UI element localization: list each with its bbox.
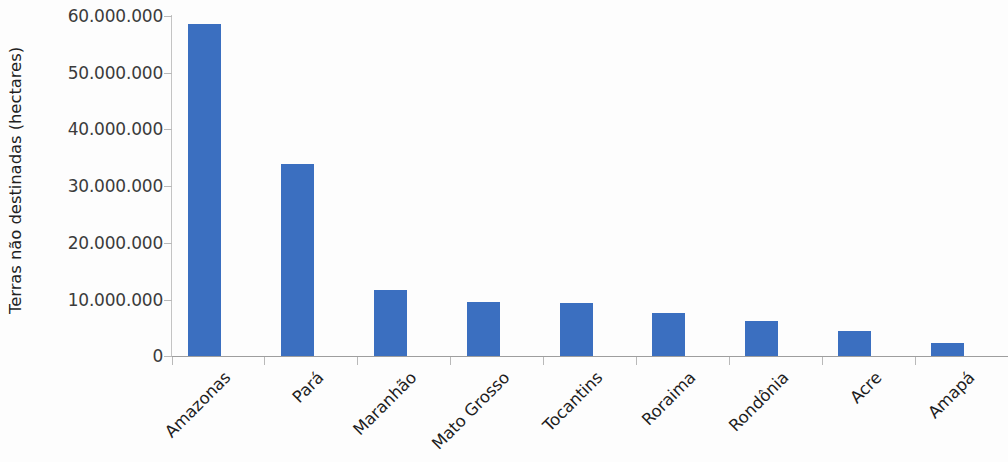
y-axis-tick-label: 60.000.000 [68, 6, 163, 26]
bar [560, 303, 593, 356]
bar [467, 302, 500, 356]
chart-figure: Terras não destinadas (hectares) 010.000… [0, 0, 1008, 462]
x-axis-tick-mark [357, 357, 358, 365]
y-axis-tick-label: 30.000.000 [68, 176, 163, 196]
x-axis-tick-mark [450, 357, 451, 365]
y-axis-tick-label: 20.000.000 [68, 233, 163, 253]
bar [374, 290, 407, 356]
x-axis-tick-mark [822, 357, 823, 365]
x-axis-tick-mark [915, 357, 916, 365]
bar [281, 164, 314, 356]
y-axis-tick-mark [164, 129, 172, 130]
bar [745, 321, 778, 356]
y-axis-tick-label: 10.000.000 [68, 290, 163, 310]
bar [652, 313, 685, 356]
y-axis-tick-mark [164, 300, 172, 301]
y-axis-tick-mark [164, 73, 172, 74]
y-axis-tick-mark [164, 16, 172, 17]
bar [931, 343, 964, 356]
y-axis-tick-mark [164, 243, 172, 244]
bar [838, 331, 871, 356]
x-axis-tick-mark [264, 357, 265, 365]
x-axis-tick-mark [172, 357, 173, 365]
y-axis-tick-label: 50.000.000 [68, 63, 163, 83]
y-axis-tick-mark [164, 186, 172, 187]
plot-area: 010.000.00020.000.00030.000.00040.000.00… [0, 0, 1008, 462]
x-axis-category-label: Amazonas [80, 368, 235, 462]
x-axis-tick-mark [636, 357, 637, 365]
y-axis-tick-label: 0 [152, 346, 163, 366]
x-axis-tick-mark [729, 357, 730, 365]
bar [188, 24, 221, 356]
y-axis-tick-label: 40.000.000 [68, 119, 163, 139]
x-axis-tick-mark [543, 357, 544, 365]
